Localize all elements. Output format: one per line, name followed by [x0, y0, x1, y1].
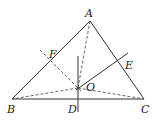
label-b: B	[6, 103, 15, 116]
label-a: A	[84, 7, 93, 20]
label-c: C	[141, 103, 150, 116]
label-o: O	[86, 81, 95, 94]
label-e: E	[124, 59, 133, 72]
label-f: F	[48, 48, 57, 61]
label-d: D	[67, 103, 77, 116]
bisector-ab-dashed	[40, 50, 82, 92]
bisector-ac	[76, 53, 128, 90]
side-ac	[90, 21, 144, 99]
triangle-diagram: A B C D E F O	[0, 0, 156, 120]
